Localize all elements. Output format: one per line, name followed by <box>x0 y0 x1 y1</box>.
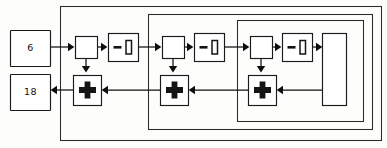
arrowhead-sum3-right <box>277 86 283 94</box>
diagram-svg: 6 18 <box>0 0 387 148</box>
input-value-label: 6 <box>27 42 33 53</box>
arrowhead-sum1-right <box>102 86 108 94</box>
arrowhead-delay3-in <box>275 43 281 51</box>
junction-block-3[interactable] <box>251 37 273 59</box>
output-value-box[interactable]: 18 <box>11 75 51 111</box>
arrowhead-output-in <box>51 86 57 94</box>
stage-3-group <box>249 34 313 106</box>
terminal-block[interactable] <box>323 34 347 106</box>
arrowhead-junction1-in <box>68 43 74 51</box>
summation-block-1[interactable] <box>74 76 102 106</box>
delay-block-2[interactable] <box>195 34 225 62</box>
arrowhead-junction3-in <box>243 43 249 51</box>
arrowhead-junction2-in <box>155 43 161 51</box>
arrowhead-delay2-in <box>187 43 193 51</box>
stage-1-group <box>74 34 139 106</box>
summation-block-2[interactable] <box>161 76 189 106</box>
input-value-box[interactable]: 6 <box>11 31 51 67</box>
summation-block-3[interactable] <box>249 76 277 106</box>
stage-2-group <box>161 34 225 106</box>
arrowhead-sum3-top <box>257 66 265 72</box>
arrowhead-delay1-in <box>101 43 107 51</box>
delay-block-3[interactable] <box>283 34 313 62</box>
output-value-label: 18 <box>24 86 37 97</box>
arrowhead-terminal-in <box>316 43 322 51</box>
block-diagram-canvas: 6 18 <box>0 0 387 148</box>
junction-block-2[interactable] <box>163 37 185 59</box>
arrowhead-sum1-top <box>82 66 90 72</box>
arrowhead-sum2-top <box>169 66 177 72</box>
junction-block-1[interactable] <box>76 37 98 59</box>
delay-block-1[interactable] <box>109 34 139 62</box>
arrowhead-sum2-right <box>189 86 195 94</box>
